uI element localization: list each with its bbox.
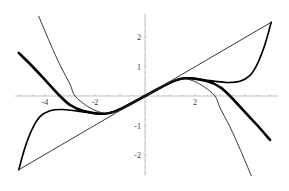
y-tick-label: -1 (134, 122, 141, 131)
x-tick-label: -4 (42, 98, 49, 107)
y-tick-label: 1 (137, 63, 141, 72)
x-tick-label: -2 (92, 98, 99, 107)
y-tick-label: 2 (137, 33, 141, 42)
x-tick-label: 2 (193, 98, 197, 107)
y-tick-label: -2 (134, 151, 141, 160)
chart: -4-2221-1-2 (0, 0, 289, 191)
